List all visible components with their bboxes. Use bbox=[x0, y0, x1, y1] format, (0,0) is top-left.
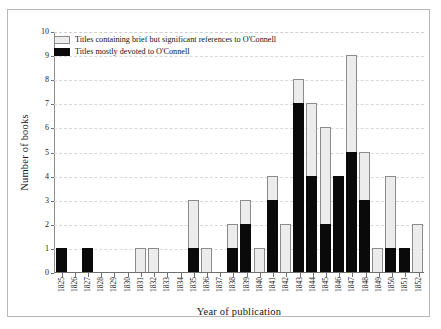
bar-segment-brief-references[interactable] bbox=[320, 127, 331, 223]
bar-stack[interactable] bbox=[227, 224, 238, 272]
y-axis-tick-label: 8 bbox=[45, 76, 49, 84]
bar-stack[interactable] bbox=[359, 152, 370, 272]
bar-slot bbox=[147, 32, 160, 272]
bar-slot bbox=[121, 32, 134, 272]
y-axis-tick-label: 6 bbox=[45, 124, 49, 132]
bar-segment-brief-references[interactable] bbox=[372, 248, 383, 272]
bar-stack[interactable] bbox=[201, 248, 212, 272]
y-axis-tick-mark bbox=[51, 80, 54, 81]
bar-stack[interactable] bbox=[372, 248, 383, 272]
bar-stack[interactable] bbox=[240, 200, 251, 272]
bar-segment-brief-references[interactable] bbox=[240, 200, 251, 224]
y-axis-tick-label: 3 bbox=[45, 197, 49, 205]
bar-segment-brief-references[interactable] bbox=[293, 79, 304, 103]
bar-segment-mostly-devoted[interactable] bbox=[267, 200, 278, 272]
x-axis-tick-label: 1840 bbox=[256, 277, 264, 292]
x-axis-label-slot: 1844 bbox=[306, 277, 319, 303]
x-axis-label-slot: 1836 bbox=[200, 277, 213, 303]
bar-stack[interactable] bbox=[385, 176, 396, 272]
x-axis-label-slot: 1838 bbox=[227, 277, 240, 303]
x-axis-tick-label: 1831 bbox=[137, 277, 145, 292]
bar-slot bbox=[292, 32, 305, 272]
bar-stack[interactable] bbox=[306, 103, 317, 272]
x-axis-label-slot: 1833 bbox=[161, 277, 174, 303]
bar-stack[interactable] bbox=[399, 248, 410, 272]
bar-slot bbox=[187, 32, 200, 272]
bar-segment-mostly-devoted[interactable] bbox=[188, 248, 199, 272]
bar-segment-mostly-devoted[interactable] bbox=[240, 224, 251, 272]
x-axis-tick-label: 1839 bbox=[243, 277, 251, 292]
bar-segment-mostly-devoted[interactable] bbox=[333, 176, 344, 272]
y-axis-tick-mark bbox=[51, 153, 54, 154]
bar-stack[interactable] bbox=[293, 79, 304, 272]
bar-stack[interactable] bbox=[82, 248, 93, 272]
bar-segment-brief-references[interactable] bbox=[412, 224, 423, 272]
bar-stack[interactable] bbox=[280, 224, 291, 272]
bar-segment-brief-references[interactable] bbox=[346, 55, 357, 151]
x-axis-label-slot: 1840 bbox=[253, 277, 266, 303]
bar-segment-mostly-devoted[interactable] bbox=[293, 103, 304, 272]
y-axis-tick-label: 5 bbox=[45, 149, 49, 157]
bar-segment-brief-references[interactable] bbox=[267, 176, 278, 200]
bar-stack[interactable] bbox=[346, 55, 357, 272]
bar-stack[interactable] bbox=[135, 248, 146, 272]
x-axis-label-slot: 1846 bbox=[333, 277, 346, 303]
bar-segment-mostly-devoted[interactable] bbox=[56, 248, 67, 272]
bar-slot bbox=[332, 32, 345, 272]
bar-slot bbox=[279, 32, 292, 272]
bar-slot bbox=[371, 32, 384, 272]
bar-segment-brief-references[interactable] bbox=[359, 152, 370, 200]
x-axis-tick-label: 1836 bbox=[203, 277, 211, 292]
bar-stack[interactable] bbox=[254, 248, 265, 272]
bar-slot bbox=[95, 32, 108, 272]
y-axis-tick-label: 0 bbox=[45, 269, 49, 277]
bar-stack[interactable] bbox=[412, 224, 423, 272]
bar-slot bbox=[411, 32, 424, 272]
bar-slot bbox=[253, 32, 266, 272]
legend-swatch-grey bbox=[54, 36, 70, 44]
bar-segment-brief-references[interactable] bbox=[188, 200, 199, 248]
y-axis-tick-label: 2 bbox=[45, 221, 49, 229]
bar-stack[interactable] bbox=[320, 127, 331, 272]
x-axis-tick-label: 1850 bbox=[388, 277, 396, 292]
x-axis-label-slot: 1827 bbox=[81, 277, 94, 303]
bar-stack[interactable] bbox=[188, 200, 199, 272]
x-axis-label-slot: 1837 bbox=[214, 277, 227, 303]
x-axis-label-slot: 1851 bbox=[399, 277, 412, 303]
bar-segment-brief-references[interactable] bbox=[201, 248, 212, 272]
bar-segment-brief-references[interactable] bbox=[385, 176, 396, 248]
x-axis-tick-label: 1847 bbox=[349, 277, 357, 292]
legend-item: Titles mostly devoted to O'Connell bbox=[54, 47, 276, 57]
bar-stack[interactable] bbox=[148, 248, 159, 272]
x-axis-tick-label: 1841 bbox=[269, 277, 277, 292]
bar-series-container bbox=[55, 32, 424, 272]
bar-stack[interactable] bbox=[333, 176, 344, 272]
bar-segment-brief-references[interactable] bbox=[135, 248, 146, 272]
bar-segment-brief-references[interactable] bbox=[254, 248, 265, 272]
bar-segment-mostly-devoted[interactable] bbox=[399, 248, 410, 272]
bar-segment-brief-references[interactable] bbox=[306, 103, 317, 175]
bar-segment-mostly-devoted[interactable] bbox=[385, 248, 396, 272]
x-axis-label-slot: 1841 bbox=[267, 277, 280, 303]
bar-stack[interactable] bbox=[267, 176, 278, 272]
bar-segment-brief-references[interactable] bbox=[148, 248, 159, 272]
bar-stack[interactable] bbox=[56, 248, 67, 272]
bar-segment-brief-references[interactable] bbox=[227, 224, 238, 248]
bar-slot bbox=[68, 32, 81, 272]
bar-segment-mostly-devoted[interactable] bbox=[320, 224, 331, 272]
y-axis-title: Number of books bbox=[19, 32, 33, 273]
bar-segment-mostly-devoted[interactable] bbox=[359, 200, 370, 272]
bar-segment-brief-references[interactable] bbox=[280, 224, 291, 272]
bar-segment-mostly-devoted[interactable] bbox=[346, 152, 357, 273]
y-axis-tick-mark bbox=[51, 177, 54, 178]
bar-segment-mostly-devoted[interactable] bbox=[227, 248, 238, 272]
y-axis-tick-label: 4 bbox=[45, 173, 49, 181]
x-axis-tick-label: 1834 bbox=[177, 277, 185, 292]
bar-slot bbox=[358, 32, 371, 272]
x-axis-label-slot: 1825 bbox=[55, 277, 68, 303]
bar-segment-mostly-devoted[interactable] bbox=[82, 248, 93, 272]
bar-segment-mostly-devoted[interactable] bbox=[306, 176, 317, 272]
y-axis-tick-mark bbox=[51, 273, 54, 274]
x-axis-label-slot: 1831 bbox=[134, 277, 147, 303]
x-axis-tick-label: 1835 bbox=[190, 277, 198, 292]
